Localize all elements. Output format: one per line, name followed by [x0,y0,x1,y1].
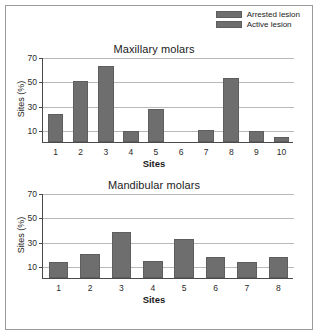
x-tick-label-4-maxillary: 4 [128,147,133,157]
y-axis-title-maxillary: Sites (%) [16,69,26,129]
y-tick-label-10-maxillary: 10 [28,126,37,136]
bar-site-4-mandibular [143,261,162,278]
x-tick-label-1-maxillary: 1 [53,147,58,157]
legend-label-arrested-lesion: Arrested lesion [247,10,300,19]
bar-site-1-mandibular [49,262,68,278]
bar-site-2-maxillary [73,81,89,142]
x-tick-label-6-mandibular: 6 [213,283,218,293]
x-tick-label-5-mandibular: 5 [182,283,187,293]
legend-swatch-arrested-lesion [216,11,242,18]
x-tick-label-4-mandibular: 4 [150,283,155,293]
y-tick-label-70-maxillary: 70 [28,53,37,63]
x-tick-label-2-mandibular: 2 [88,283,93,293]
chart-panel-maxillary: Arrested lesion Active lesion Maxillary … [0,6,308,166]
bar-site-8-maxillary [223,78,239,142]
bar-site-5-maxillary [148,109,164,142]
bar-site-3-maxillary [98,66,114,143]
x-tick-label-1-mandibular: 1 [56,283,61,293]
bar-site-4-maxillary [123,131,139,142]
y-tick-label-10-mandibular: 10 [28,262,37,272]
bar-site-1-maxillary [48,114,64,142]
legend-label-active-lesion: Active lesion [247,20,292,29]
gridline [43,218,294,219]
x-tick-label-3-mandibular: 3 [119,283,124,293]
y-tick-mark [39,131,43,132]
gridline [43,194,294,195]
y-tick-label-50-mandibular: 50 [28,213,37,223]
bar-site-9-maxillary [249,131,265,142]
y-tick-mark [39,243,43,244]
legend-swatch-active-lesion [216,21,242,28]
bar-site-8-mandibular [269,257,288,278]
x-axis-title-mandibular: Sites [0,294,308,305]
chart-title-maxillary: Maxillary molars [0,43,308,55]
y-tick-label-30-maxillary: 30 [28,102,37,112]
y-tick-mark [39,58,43,59]
chart-title-mandibular: Mandibular molars [0,179,308,191]
x-tick-label-10-maxillary: 10 [277,147,286,157]
y-tick-mark [39,267,43,268]
bar-site-10-maxillary [274,137,290,142]
bar-site-3-mandibular [112,232,131,278]
y-axis-title-mandibular: Sites (%) [16,205,26,265]
legend-item-active-lesion: Active lesion [216,20,300,29]
bar-site-5-mandibular [174,239,193,278]
y-tick-mark [39,194,43,195]
legend: Arrested lesion Active lesion [216,10,300,29]
plot-area-mandibular: 1030507012345678 [42,194,293,279]
x-tick-label-9-maxillary: 9 [254,147,259,157]
bar-site-7-maxillary [198,130,214,142]
x-tick-label-8-maxillary: 8 [229,147,234,157]
bar-site-6-mandibular [206,257,225,278]
legend-item-arrested-lesion: Arrested lesion [216,10,300,19]
x-tick-label-7-mandibular: 7 [245,283,250,293]
bar-site-7-mandibular [237,262,256,278]
x-tick-label-3-maxillary: 3 [103,147,108,157]
y-tick-label-50-maxillary: 50 [28,77,37,87]
x-tick-label-8-mandibular: 8 [276,283,281,293]
plot-area-maxillary: 1030507012345678910 [42,58,293,143]
y-tick-mark [39,82,43,83]
figure-root: Arrested lesion Active lesion Maxillary … [0,0,318,335]
gridline [43,58,294,59]
gridline [43,243,294,244]
y-tick-mark [39,107,43,108]
chart-panel-mandibular: Mandibular molars Sites (%) 103050701234… [0,168,308,323]
x-tick-label-6-maxillary: 6 [179,147,184,157]
y-tick-label-30-mandibular: 30 [28,238,37,248]
bar-site-2-mandibular [80,254,99,278]
x-tick-label-5-maxillary: 5 [154,147,159,157]
x-tick-label-2-maxillary: 2 [78,147,83,157]
y-tick-label-70-mandibular: 70 [28,189,37,199]
x-tick-label-7-maxillary: 7 [204,147,209,157]
y-tick-mark [39,218,43,219]
